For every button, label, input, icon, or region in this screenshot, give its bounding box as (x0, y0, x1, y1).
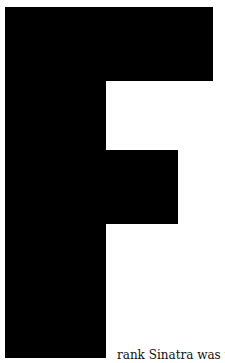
drop-cap-middle-bar (105, 150, 178, 224)
article-body-text: rank Sinatra was th (117, 348, 225, 362)
drop-cap-stem (5, 7, 106, 358)
